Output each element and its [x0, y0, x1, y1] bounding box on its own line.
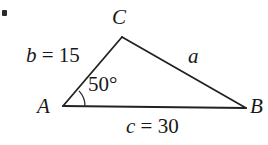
side-b-variable: b: [26, 43, 37, 67]
side-a-line: [122, 37, 246, 108]
side-c-line: [63, 106, 246, 108]
side-label-b: b = 15: [26, 45, 80, 66]
side-b-value: 15: [59, 43, 80, 67]
vertex-label-b: B: [250, 96, 263, 117]
side-b-equals: =: [42, 43, 54, 67]
vertex-label-c: C: [112, 7, 126, 28]
angle-arc-a: [79, 91, 85, 106]
angle-label-a: 50°: [88, 74, 117, 95]
side-c-variable: c: [126, 114, 135, 138]
side-c-equals: =: [141, 114, 153, 138]
side-c-value: 30: [158, 114, 179, 138]
triangle-diagram: C A B a b = 15 c = 30 50°: [0, 0, 268, 145]
side-label-a: a: [188, 46, 199, 67]
side-label-c: c = 30: [126, 116, 179, 137]
vertex-label-a: A: [37, 96, 50, 117]
